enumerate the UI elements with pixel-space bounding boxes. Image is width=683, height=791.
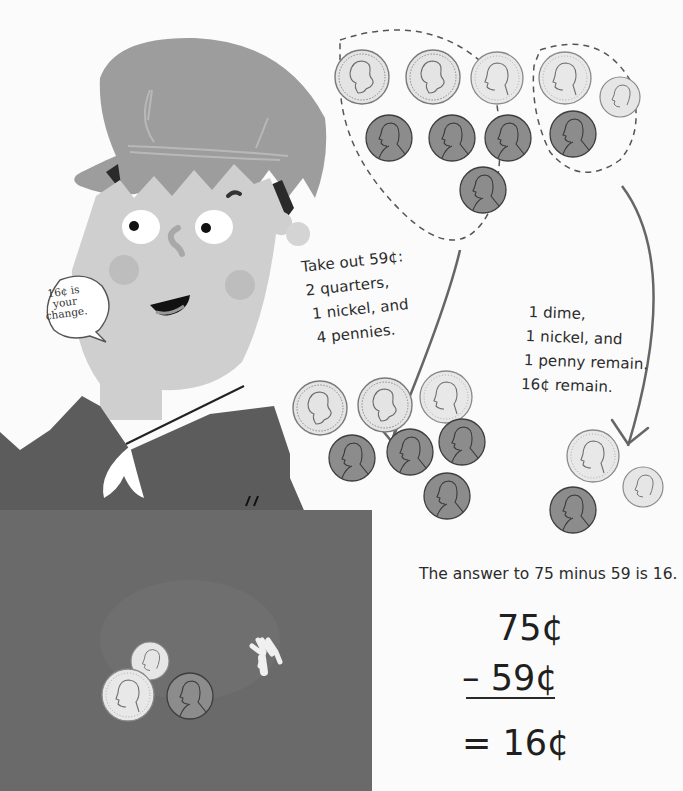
note-line: 16¢ remain.: [521, 372, 648, 400]
answer-sentence: The answer to 75 minus 59 is 16.: [419, 565, 677, 583]
start-coins-take: [335, 50, 531, 213]
equation-result: = 16¢: [462, 723, 569, 763]
equation-subtrahend: – 59¢: [462, 658, 557, 698]
taken-out-coins: [293, 371, 485, 519]
equation-minuend: 75¢: [497, 608, 564, 648]
take-out-note: Take out 59¢: 2 quarters, 1 nickel, and …: [300, 244, 412, 350]
start-coins-keep: [539, 52, 640, 157]
boy-face: [72, 164, 310, 420]
equation-divider: [466, 697, 555, 699]
counter: [0, 510, 372, 791]
remain-note: 1 dime, 1 nickel, and 1 penny remain. 16…: [523, 300, 651, 400]
remaining-coins: [550, 430, 663, 533]
